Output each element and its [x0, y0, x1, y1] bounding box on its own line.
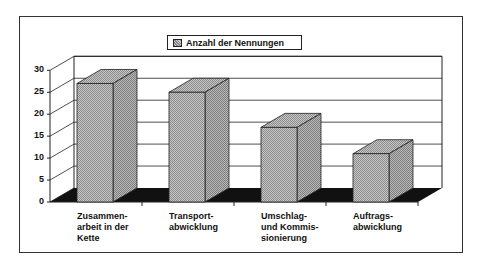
- bar-side: [297, 113, 321, 202]
- gridline-side: [50, 166, 74, 180]
- gridline-side: [50, 56, 74, 70]
- y-tick-label: 5: [22, 174, 44, 184]
- y-tick-label: 30: [22, 64, 44, 74]
- bar: [77, 83, 113, 202]
- gridline-side: [50, 100, 74, 114]
- gridline-side: [50, 78, 74, 92]
- x-category-label: Zusammen- arbeit in der Kette: [77, 211, 129, 244]
- gridline-side: [50, 144, 74, 158]
- bar: [169, 92, 205, 202]
- chart-plot: [0, 0, 481, 269]
- y-tick-label: 0: [22, 196, 44, 206]
- y-tick-label: 20: [22, 108, 44, 118]
- bar: [261, 127, 297, 202]
- x-category-label: Transport- abwicklung: [169, 211, 218, 233]
- bar: [353, 154, 389, 202]
- x-category-label: Umschlag- und Kommis- sionierung: [261, 211, 319, 244]
- bar-side: [113, 69, 137, 202]
- x-category-label: Auftrags- abwicklung: [353, 211, 402, 233]
- y-tick-label: 25: [22, 86, 44, 96]
- gridline-side: [50, 122, 74, 136]
- y-tick-label: 10: [22, 152, 44, 162]
- y-tick-label: 15: [22, 130, 44, 140]
- bar-side: [205, 78, 229, 202]
